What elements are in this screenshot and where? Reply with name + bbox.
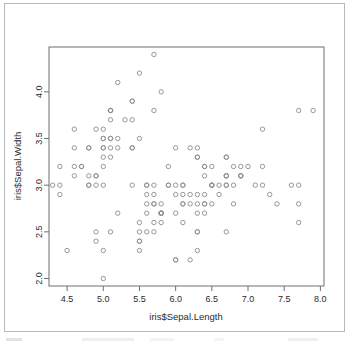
scatter-point bbox=[268, 192, 272, 196]
scatter-point bbox=[137, 220, 141, 224]
scatter-point bbox=[224, 230, 228, 234]
scatter-point bbox=[173, 183, 177, 187]
scatter-point bbox=[159, 220, 163, 224]
scatter-point bbox=[65, 248, 69, 252]
scatter-point bbox=[195, 146, 199, 150]
scatter-point bbox=[101, 276, 105, 280]
scatter-point bbox=[94, 183, 98, 187]
scatter-point bbox=[123, 118, 127, 122]
scatter-point bbox=[137, 239, 141, 243]
scatter-point bbox=[101, 183, 105, 187]
scatter-point bbox=[72, 174, 76, 178]
y-axis-label: iris$Sepal.Width bbox=[12, 132, 23, 201]
scatter-point bbox=[239, 164, 243, 168]
scatter-point bbox=[145, 192, 149, 196]
scatter-point bbox=[101, 248, 105, 252]
scatter-point bbox=[217, 192, 221, 196]
scatter-point bbox=[58, 183, 62, 187]
scatter-point bbox=[311, 108, 315, 112]
scatter-point bbox=[188, 258, 192, 262]
scatter-point bbox=[195, 248, 199, 252]
scatter-point bbox=[58, 192, 62, 196]
x-axis: 4.55.05.56.06.57.07.58.0 bbox=[61, 286, 327, 304]
scatter-point bbox=[101, 136, 105, 140]
scatter-point bbox=[188, 146, 192, 150]
scatter-point bbox=[137, 71, 141, 75]
x-tick-label: 5.0 bbox=[97, 294, 110, 304]
scatter-point bbox=[210, 183, 214, 187]
scatter-point bbox=[94, 239, 98, 243]
scatter-point bbox=[195, 230, 199, 234]
scatter-point bbox=[145, 230, 149, 234]
scatter-point bbox=[130, 118, 134, 122]
scatter-point bbox=[145, 202, 149, 206]
scatter-point bbox=[246, 164, 250, 168]
scatter-point bbox=[145, 211, 149, 215]
scatter-point bbox=[101, 164, 105, 168]
x-tick-label: 7.0 bbox=[242, 294, 255, 304]
scatter-point bbox=[202, 202, 206, 206]
scatter-point bbox=[181, 192, 185, 196]
scatter-point bbox=[159, 211, 163, 215]
scatter-point bbox=[173, 211, 177, 215]
scatter-point bbox=[87, 146, 91, 150]
scatter-point bbox=[72, 127, 76, 131]
scatter-point bbox=[108, 118, 112, 122]
scatter-point bbox=[159, 202, 163, 206]
scatter-point bbox=[108, 146, 112, 150]
scatter-point bbox=[116, 211, 120, 215]
scatter-point bbox=[130, 183, 134, 187]
scatter-point bbox=[231, 164, 235, 168]
x-axis-label: iris$Sepal.Length bbox=[149, 311, 222, 322]
scatter-points-group bbox=[50, 52, 315, 280]
scatter-point bbox=[101, 127, 105, 131]
scatter-point bbox=[188, 202, 192, 206]
scatter-point bbox=[87, 174, 91, 178]
scatter-point bbox=[253, 183, 257, 187]
scatter-point bbox=[224, 174, 228, 178]
x-tick-label: 5.5 bbox=[133, 294, 146, 304]
scatter-point bbox=[108, 108, 112, 112]
scatter-point bbox=[296, 202, 300, 206]
scatter-plot: 4.55.05.56.06.57.07.58.0 2.02.53.03.54.0… bbox=[5, 4, 344, 331]
scatter-point bbox=[137, 136, 141, 140]
scatter-point bbox=[202, 164, 206, 168]
scatter-point bbox=[116, 146, 120, 150]
scatter-point bbox=[210, 164, 214, 168]
scatter-point bbox=[181, 220, 185, 224]
scatter-point bbox=[79, 164, 83, 168]
plot-frame bbox=[49, 47, 324, 286]
scatter-point bbox=[50, 183, 54, 187]
scatter-point bbox=[108, 155, 112, 159]
scatter-point bbox=[152, 52, 156, 56]
scatter-point bbox=[130, 146, 134, 150]
scatter-point bbox=[239, 174, 243, 178]
scatter-point bbox=[145, 183, 149, 187]
scatter-point bbox=[166, 164, 170, 168]
scatter-point bbox=[231, 202, 235, 206]
y-axis: 2.02.53.03.54.0 bbox=[34, 86, 49, 285]
scatter-point bbox=[94, 127, 98, 131]
scatter-point bbox=[260, 127, 264, 131]
scatter-point bbox=[58, 164, 62, 168]
scatter-point bbox=[72, 146, 76, 150]
scatter-point bbox=[210, 202, 214, 206]
x-tick-label: 4.5 bbox=[61, 294, 74, 304]
scatter-point bbox=[181, 202, 185, 206]
scatter-point bbox=[289, 183, 293, 187]
r-graphics-window: 4.55.05.56.06.57.07.58.0 2.02.53.03.54.0… bbox=[4, 3, 345, 332]
plot-canvas: 4.55.05.56.06.57.07.58.0 2.02.53.03.54.0… bbox=[5, 4, 344, 331]
scatter-point bbox=[116, 136, 120, 140]
scatter-point bbox=[217, 183, 221, 187]
scatter-point bbox=[101, 155, 105, 159]
scatter-point bbox=[195, 155, 199, 159]
scatter-point bbox=[130, 99, 134, 103]
scatter-point bbox=[260, 164, 264, 168]
scatter-point bbox=[152, 230, 156, 234]
x-tick-label: 8.0 bbox=[314, 294, 327, 304]
scatter-point bbox=[195, 192, 199, 196]
scatter-point bbox=[224, 183, 228, 187]
scatter-point bbox=[296, 220, 300, 224]
y-tick-label: 2.0 bbox=[34, 272, 44, 285]
scatter-point bbox=[137, 230, 141, 234]
